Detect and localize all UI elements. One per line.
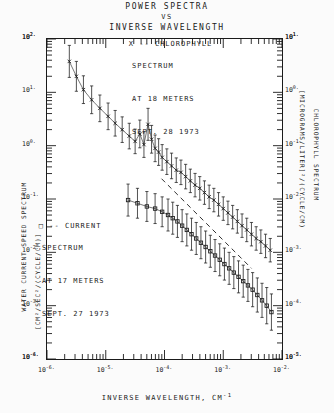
figure-root: POWER SPECTRA VS INVERSE WAVELENGTH 102.… [0,0,334,413]
x-axis-tick-3: 10-3. [214,364,231,374]
x-axis-tick-1: 10-5. [97,364,114,374]
x-axis-tick-4: 10-2. [273,364,290,374]
x-axis-title-exponent: -1 [223,392,232,398]
y-axis-right-title-line1: CHLOROPHYLL SPECTRUM [313,109,320,202]
x-axis-title: INVERSE WAVELENGTH, CM-1 [0,392,334,402]
y-axis-right-title: CHLOROPHYLL SPECTRUM [MICROGRAMS/LITER]²… [285,90,327,229]
y-axis-right-tick-4: 10-3. [285,244,302,254]
y-axis-left-tick-1: 101. [22,84,36,94]
annotation-chlorophyll-line2: SPECTRUM [108,61,212,72]
annotation-chlorophyll-line4: SEPT. 28 1973 [108,127,212,138]
y-axis-right-tick-top-dup: 101. [285,31,299,41]
chart-title-line2: VS [0,13,334,21]
annotation-current-line3: AT 17 METERS [18,276,110,287]
x-origin-right-dup: 10-2. [285,351,302,361]
y-axis-left-tick-2: 100. [22,138,36,148]
y-axis-left-tick-top-dup: 102. [22,31,36,41]
y-axis-right-tick-5: 10-4. [285,298,302,308]
x-axis-title-text: INVERSE WAVELENGTH, CM [102,394,223,402]
annotation-current-line2: SPECTRUM [18,243,110,254]
x-origin-left-dup: 10-6. [22,351,39,361]
x-axis-tick-0: 10-6. [38,364,55,374]
annotation-chlorophyll-line3: AT 18 METERS [108,94,212,105]
x-axis-tick-2: 10-4. [156,364,173,374]
annotation-chlorophyll: X -- CHLOROPHYLL SPECTRUM AT 18 METERS S… [108,28,212,160]
annotation-current: □ -- CURRENT SPECTRUM AT 17 METERS SEPT.… [18,210,110,342]
annotation-chlorophyll-line1: X -- CHLOROPHYLL [129,40,212,48]
annotation-current-line4: SEPT. 27 1973 [18,309,110,320]
chart-title-line1: POWER SPECTRA [0,2,334,11]
y-axis-right-title-line2: [MICROGRAMS/LITER]²/(CYCLE/CM) [299,90,306,229]
annotation-current-line1: □ -- CURRENT [39,222,102,230]
